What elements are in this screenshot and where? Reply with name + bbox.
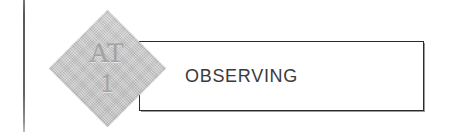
diamond-shape-icon bbox=[48, 9, 165, 126]
figure-canvas: OBSERVING AT 1 bbox=[0, 0, 449, 132]
stage-banner-box: OBSERVING bbox=[139, 41, 424, 111]
stage-badge: AT 1 bbox=[48, 9, 166, 127]
page-margin-rule bbox=[23, 0, 25, 132]
stage-label: OBSERVING bbox=[185, 66, 298, 87]
